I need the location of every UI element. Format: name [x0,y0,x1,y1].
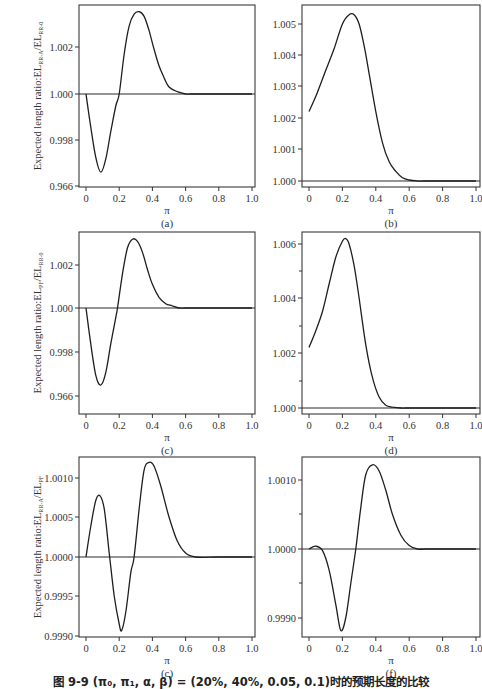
x-tick-label: 0.8 [436,420,449,431]
y-tick-label: 1.000 [272,176,296,187]
x-tick-label: 0.8 [212,420,225,431]
chart-panel-f: 0.99901.00001.001000.20.40.60.81.0π(f) [267,457,482,680]
y-tick-label: 1.004 [272,50,296,61]
x-axis-label: π [164,431,170,443]
x-tick-label: 0.6 [179,420,192,431]
y-tick-label: 0.966 [49,391,73,402]
y-tick-label: 1.004 [272,293,296,304]
plot-frame [79,232,255,414]
x-tick-label: 0.4 [369,193,383,204]
x-tick-label: 0 [83,420,88,431]
y-tick-label: 1.002 [272,348,296,359]
y-tick-label: 0.998 [49,135,73,146]
x-tick-label: 1.0 [245,643,258,654]
x-axis-label: π [388,654,394,666]
chart-panel-a: 0.9660.9981.0001.00200.20.40.60.81.0π(a)… [32,5,259,230]
chart-panel-d: 1.0001.0021.0041.00600.20.40.60.81.0π(d) [272,232,482,457]
y-tick-label: 1.002 [272,113,296,124]
y-tick-label: 1.000 [272,403,296,414]
y-tick-label: 1.001 [272,144,296,155]
x-axis-label: π [164,654,170,666]
chart-panel-c: 0.9660.9981.0001.00200.20.40.60.81.0π(c)… [32,232,259,457]
x-tick-label: 0.4 [146,193,160,204]
x-tick-label: 0.6 [403,420,416,431]
y-tick-label: 1.0000 [44,552,73,563]
x-tick-label: 0.2 [113,420,126,431]
plot-frame [302,5,480,187]
y-tick-label: 1.000 [49,89,73,100]
x-tick-label: 0 [306,420,311,431]
x-tick-label: 0.6 [179,643,192,654]
x-tick-label: 1.0 [469,193,482,204]
x-tick-label: 0 [83,193,88,204]
y-tick-label: 0.998 [49,347,73,358]
x-tick-label: 0 [83,643,88,654]
x-tick-label: 0.8 [212,193,225,204]
y-tick-label: 1.0005 [44,512,73,523]
chart-panel-e: 0.99900.99951.00001.00051.001000.20.40.6… [32,457,259,680]
x-tick-label: 0.8 [436,643,449,654]
y-tick-label: 1.0010 [44,473,73,484]
y-tick-label: 1.003 [272,81,296,92]
y-tick-label: 1.002 [49,260,73,271]
data-line [86,239,252,385]
chart-panel-b: 1.0001.0011.0021.0031.0041.00500.20.40.6… [272,5,482,230]
y-tick-label: 0.9995 [44,591,73,602]
x-tick-label: 0.8 [212,643,225,654]
panel-label: (b) [385,217,398,230]
panel-label: (a) [161,217,174,230]
y-axis-label: Expected length ratio:ELRR-A/ELRR-0 [32,22,44,171]
data-line [309,465,476,631]
x-tick-label: 0.6 [403,643,416,654]
figure-caption: 图 9-9 (π₀, π₁, α, β) = (20%, 40%, 0.05, … [0,673,482,689]
x-tick-label: 0.4 [146,420,160,431]
y-tick-label: 1.002 [49,42,73,53]
y-tick-label: 1.005 [272,19,296,30]
x-axis-label: π [164,204,170,216]
y-tick-label: 0.9990 [267,613,296,624]
data-line [309,238,476,408]
y-tick-label: 1.0000 [267,544,296,555]
x-axis-label: π [388,431,394,443]
data-line [309,14,476,182]
x-tick-label: 0.2 [113,643,126,654]
plot-frame [302,232,480,414]
x-tick-label: 0.2 [113,193,126,204]
data-line [86,462,252,631]
y-tick-label: 0.966 [49,181,73,192]
x-tick-label: 0.4 [369,420,383,431]
x-tick-label: 1.0 [469,643,482,654]
x-tick-label: 1.0 [469,420,482,431]
y-tick-label: 0.9990 [44,631,73,642]
y-tick-label: 1.000 [49,303,73,314]
x-tick-label: 0.4 [146,643,160,654]
plot-frame [79,457,255,637]
x-tick-label: 1.0 [245,420,258,431]
x-tick-label: 0.4 [369,643,383,654]
y-axis-label: Expected length ratio:ELRR-A/ELPF [32,475,44,618]
x-tick-label: 1.0 [245,193,258,204]
x-tick-label: 0.2 [336,193,349,204]
panel-label: (d) [385,444,398,457]
plot-frame [302,457,480,637]
x-tick-label: 0 [306,643,311,654]
y-axis-label: Expected length ratio:ELPF/ELRR-0 [32,253,44,394]
x-tick-label: 0.6 [179,193,192,204]
panel-label: (c) [161,444,174,457]
x-tick-label: 0.2 [336,643,349,654]
x-tick-label: 0.8 [436,193,449,204]
x-tick-label: 0.6 [403,193,416,204]
x-tick-label: 0 [306,193,311,204]
x-tick-label: 0.2 [336,420,349,431]
y-tick-label: 1.006 [272,239,296,250]
data-line [86,12,252,173]
x-axis-label: π [388,204,394,216]
y-tick-label: 1.0010 [267,475,296,486]
